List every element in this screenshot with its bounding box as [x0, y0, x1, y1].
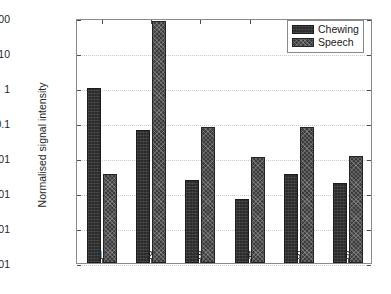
y-tick-label: 0.00001	[0, 258, 10, 270]
bar-speech-3	[201, 127, 215, 263]
y-tick-mark	[77, 125, 81, 126]
y-tick-label: 1	[0, 83, 10, 95]
y-tick-mark	[77, 265, 81, 266]
bar-chewing-2	[136, 130, 150, 263]
y-tick-mark	[367, 195, 371, 196]
y-tick-mark	[77, 160, 81, 161]
gridline	[77, 195, 371, 196]
y-tick-mark	[367, 230, 371, 231]
y-tick-mark	[77, 230, 81, 231]
gridline	[77, 55, 371, 56]
y-tick-mark	[367, 55, 371, 56]
gridline	[77, 160, 371, 161]
x-tick-label: 6	[332, 249, 362, 261]
legend-item-speech: Speech	[292, 36, 359, 49]
gridline	[77, 265, 371, 266]
y-tick-mark	[77, 90, 81, 91]
speech-swatch	[292, 38, 314, 47]
y-tick-mark	[367, 90, 371, 91]
chewing-swatch	[292, 25, 314, 34]
y-tick-mark	[367, 265, 371, 266]
bar-chewing-1	[87, 88, 101, 263]
x-tick-mark	[250, 20, 251, 24]
x-tick-label: 4	[234, 249, 264, 261]
y-tick-mark	[367, 125, 371, 126]
y-tick-label: 0.01	[0, 153, 10, 165]
y-tick-mark	[367, 160, 371, 161]
y-tick-mark	[77, 195, 81, 196]
gridline	[77, 230, 371, 231]
y-axis-label: Normalised signal intensity	[36, 35, 48, 255]
x-tick-label: 2	[135, 249, 165, 261]
x-tick-label: 1	[86, 249, 116, 261]
gridline	[77, 90, 371, 91]
bar-speech-6	[349, 156, 363, 263]
y-tick-label: 0.0001	[0, 223, 10, 235]
bar-speech-2	[152, 21, 166, 263]
y-tick-label: 100	[0, 13, 10, 25]
y-tick-label: 0.1	[0, 118, 10, 130]
y-tick-mark	[367, 20, 371, 21]
x-tick-label: 3	[184, 249, 214, 261]
gridline	[77, 125, 371, 126]
bar-speech-5	[300, 127, 314, 263]
chart-legend: ChewingSpeech	[287, 20, 364, 53]
y-tick-label: 10	[0, 48, 10, 60]
y-tick-mark	[77, 20, 81, 21]
plot-area	[76, 19, 372, 264]
bar-speech-4	[251, 157, 265, 263]
legend-label: Chewing	[318, 24, 359, 35]
y-tick-label: 0.001	[0, 188, 10, 200]
legend-item-chewing: Chewing	[292, 23, 359, 36]
x-tick-mark	[102, 20, 103, 24]
x-tick-mark	[200, 20, 201, 24]
x-tick-label: 5	[283, 249, 313, 261]
chart-figure: Normalised signal intensity 1001010.10.0…	[0, 0, 391, 294]
y-tick-mark	[77, 55, 81, 56]
legend-label: Speech	[318, 37, 354, 48]
